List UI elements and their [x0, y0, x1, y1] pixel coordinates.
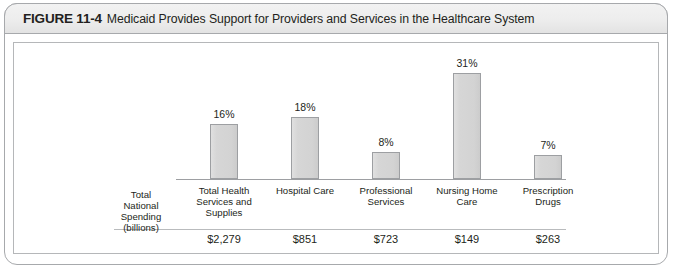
bar [534, 155, 562, 179]
row-label-total-national-spending: TotalNationalSpending(billions) [110, 189, 172, 233]
category-label: Nursing HomeCare [423, 185, 511, 207]
dollar-value: $723 [342, 233, 430, 245]
bar-value-label: 31% [437, 57, 497, 69]
dollar-value: $2,279 [180, 233, 268, 245]
bar [453, 73, 481, 179]
bar-chart: TotalNationalSpending(billions) 16%18%8%… [14, 43, 660, 255]
bar-value-label: 8% [356, 136, 416, 148]
value-row-separator [114, 229, 566, 230]
x-axis-line [176, 179, 566, 180]
bar-value-label: 7% [518, 139, 578, 151]
figure-title: Medicaid Provides Support for Providers … [107, 12, 535, 26]
chart-plot-box: TotalNationalSpending(billions) 16%18%8%… [13, 42, 659, 254]
figure-caption: FIGURE 11-4Medicaid Provides Support for… [5, 11, 535, 26]
dollar-value: $851 [261, 233, 349, 245]
category-label: Hospital Care [261, 185, 349, 196]
bar [291, 117, 319, 179]
bar-value-label: 18% [275, 101, 335, 113]
dollar-value: $263 [504, 233, 592, 245]
category-label: ProfessionalServices [342, 185, 430, 207]
bar [210, 124, 238, 179]
bar [372, 152, 400, 179]
figure-number: FIGURE 11-4 [23, 11, 102, 26]
dollar-value: $149 [423, 233, 511, 245]
category-label: Total HealthServices andSupplies [180, 185, 268, 218]
bar-value-label: 16% [194, 108, 254, 120]
category-label: PrescriptionDrugs [504, 185, 592, 207]
figure-header: FIGURE 11-4Medicaid Provides Support for… [4, 3, 668, 34]
